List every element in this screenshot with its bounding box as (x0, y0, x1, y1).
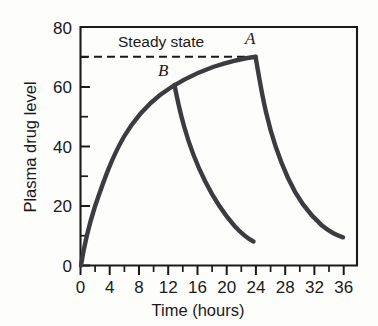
x-tick-label-16: 16 (188, 278, 207, 297)
x-axis-tick-labels: 0 4 8 12 16 20 24 28 32 36 (76, 278, 353, 297)
x-tick-label-28: 28 (276, 278, 295, 297)
y-tick-label-20: 20 (53, 197, 72, 216)
y-axis-title: Plasma drug level (21, 81, 39, 212)
y-axis-tick-labels: 0 20 40 60 80 (53, 19, 72, 276)
x-tick-label-12: 12 (159, 278, 178, 297)
x-tick-label-36: 36 (334, 278, 353, 297)
plot-frame (81, 27, 358, 266)
x-tick-label-20: 20 (217, 278, 236, 297)
x-tick-label-0: 0 (76, 278, 85, 297)
x-axis-title: Time (hours) (152, 301, 245, 319)
point-label-a: A (244, 29, 256, 48)
series-elimination-from-b (175, 85, 254, 242)
series-elimination-from-a (256, 57, 343, 238)
x-tick-label-4: 4 (105, 278, 114, 297)
x-tick-label-24: 24 (246, 278, 265, 297)
x-axis-ticks (81, 266, 344, 276)
x-tick-label-8: 8 (134, 278, 143, 297)
y-tick-label-60: 60 (53, 78, 72, 97)
steady-state-label: Steady state (118, 33, 204, 50)
plasma-drug-level-chart: 0 20 40 60 80 0 4 8 12 16 20 24 28 (0, 0, 378, 326)
x-tick-label-32: 32 (305, 278, 324, 297)
chart-svg: 0 20 40 60 80 0 4 8 12 16 20 24 28 (0, 0, 378, 326)
y-tick-label-40: 40 (53, 138, 72, 157)
y-tick-label-0: 0 (63, 257, 72, 276)
point-label-b: B (158, 61, 169, 80)
series-accumulation-curve (81, 57, 256, 266)
y-tick-label-80: 80 (53, 19, 72, 38)
